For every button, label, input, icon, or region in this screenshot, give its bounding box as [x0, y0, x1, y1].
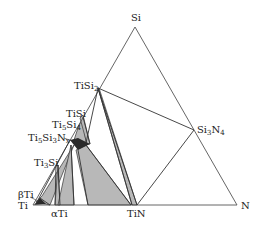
label-si: Si: [131, 12, 141, 23]
label-si3n4: Si3N4: [197, 124, 225, 137]
region-ti5si3-tin: [76, 145, 131, 205]
label-ti5si3nx: Ti5Si3Nx: [28, 132, 70, 145]
label-tin: TiN: [127, 208, 146, 219]
label-ti5si4: Ti5Si4: [52, 119, 81, 132]
label-alphati: αTi: [51, 208, 68, 219]
label-betati: βTi: [18, 189, 34, 200]
ternary-diagram: Si Ti N TiSi2 TiSi Ti5Si4 Ti5Si3Nx Ti3Si…: [0, 0, 262, 233]
shaded-regions: [36, 88, 137, 205]
label-n: N: [241, 200, 250, 211]
label-ti: Ti: [18, 200, 28, 211]
label-tisi2: TiSi2: [74, 80, 98, 93]
label-tisi: TiSi: [66, 108, 86, 119]
